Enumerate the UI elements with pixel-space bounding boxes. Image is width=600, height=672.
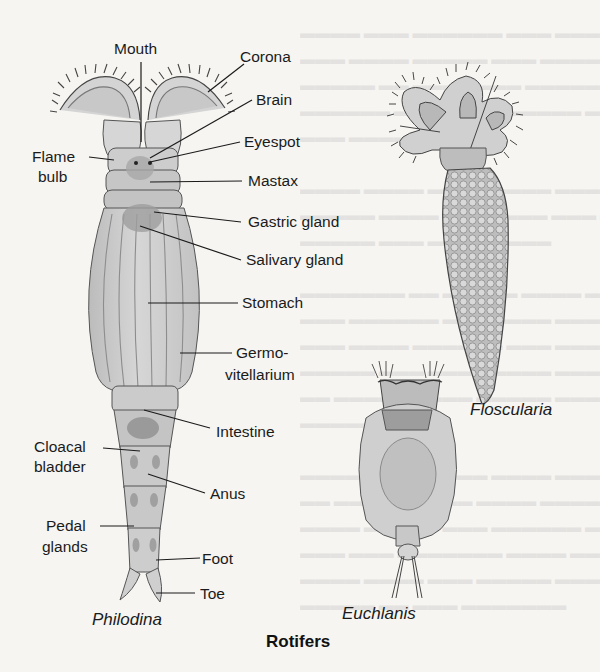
label-anus: Anus [210, 485, 245, 503]
label-germovitellarium-line2: vitellarium [225, 366, 295, 384]
label-cloacal-bladder-line1: Cloacal [34, 438, 86, 456]
euchlanis-cilia [372, 361, 444, 378]
label-gastric-gland: Gastric gland [248, 213, 339, 231]
corona-right [145, 64, 235, 120]
label-toe: Toe [200, 585, 225, 603]
rotifers-figure: ▬▬▬▬ ▬▬▬ ▬▬▬▬▬▬ ▬▬▬ ▬▬▬▬▬ ▬▬ ▬▬▬ ▬▬▬▬ ▬▬… [0, 0, 600, 672]
label-foot: Foot [202, 550, 233, 568]
label-germovitellarium-line1: Germo- [236, 344, 289, 362]
label-pedal-glands-line1: Pedal [46, 517, 86, 535]
organism-illustrations [0, 0, 600, 672]
label-cloacal-bladder-line2: bladder [34, 458, 86, 476]
label-eyespot: Eyespot [244, 133, 300, 151]
floscularia-drawing [387, 62, 523, 404]
label-stomach: Stomach [242, 294, 303, 312]
species-floscularia: Floscularia [470, 400, 552, 420]
label-flame-bulb-line1: Flame [32, 148, 75, 166]
label-mouth: Mouth [114, 40, 157, 58]
label-pedal-glands-line2: glands [42, 538, 88, 556]
euchlanis-drawing [359, 361, 457, 598]
corona-left [50, 64, 140, 120]
label-mastax: Mastax [248, 172, 298, 190]
label-flame-bulb-line2: bulb [38, 168, 67, 186]
floscularia-tube [443, 168, 509, 404]
label-salivary-gland: Salivary gland [246, 251, 343, 269]
label-corona: Corona [240, 48, 291, 66]
figure-title: Rotifers [266, 632, 330, 652]
species-euchlanis: Euchlanis [342, 604, 416, 624]
label-intestine: Intestine [216, 423, 275, 441]
species-philodina: Philodina [92, 610, 162, 630]
label-brain: Brain [256, 91, 292, 109]
